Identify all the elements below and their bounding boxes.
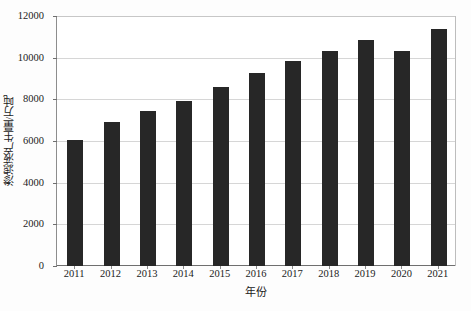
bar[interactable] xyxy=(394,51,410,266)
bar[interactable] xyxy=(322,51,338,266)
plot-area xyxy=(56,16,456,266)
x-axis-tick-mark xyxy=(365,266,366,269)
x-axis-tick-mark xyxy=(147,266,148,269)
x-axis-tick-labels: 2011201220132014201520162017201820192020… xyxy=(56,268,456,284)
x-axis-tick-mark xyxy=(220,266,221,269)
y-axis-tick-label: 4000 xyxy=(23,178,44,188)
y-axis-tick-label: 8000 xyxy=(23,94,44,104)
y-axis-tick-mark xyxy=(53,224,57,225)
x-axis-tick-mark xyxy=(74,266,75,269)
bar[interactable] xyxy=(104,122,120,266)
y-axis-tick-mark xyxy=(53,141,57,142)
bar[interactable] xyxy=(67,140,83,266)
x-axis-tick-label: 2014 xyxy=(173,268,194,280)
x-axis-tick-mark xyxy=(438,266,439,269)
bar[interactable] xyxy=(431,29,447,266)
bar[interactable] xyxy=(285,61,301,266)
x-axis-tick-label: 2021 xyxy=(427,268,448,280)
bar[interactable] xyxy=(176,101,192,266)
y-axis-tick-label: 2000 xyxy=(23,219,44,229)
y-axis-tick-mark xyxy=(53,58,57,59)
x-axis-tick-label: 2012 xyxy=(100,268,121,280)
x-axis-tick-mark xyxy=(329,266,330,269)
y-axis-tick-mark xyxy=(53,183,57,184)
x-axis-tick-label: 2011 xyxy=(64,268,85,280)
x-axis-tick-label: 2015 xyxy=(209,268,230,280)
x-axis-tick-mark xyxy=(256,266,257,269)
bar[interactable] xyxy=(358,40,374,266)
x-axis-title: 年份 xyxy=(56,283,456,299)
x-axis-tick-mark xyxy=(401,266,402,269)
x-axis-tick-label: 2017 xyxy=(282,268,303,280)
x-axis-tick-mark xyxy=(183,266,184,269)
y-axis-tick-mark xyxy=(53,266,57,267)
y-axis-tick-label: 12000 xyxy=(18,11,44,21)
bar[interactable] xyxy=(213,87,229,266)
x-axis-tick-label: 2013 xyxy=(136,268,157,280)
x-axis-tick-label: 2019 xyxy=(355,268,376,280)
bar[interactable] xyxy=(140,111,156,266)
y-axis-tick-mark xyxy=(53,16,57,17)
y-axis-tick-label: 0 xyxy=(39,261,44,271)
y-axis-tick-mark xyxy=(53,99,57,100)
bar-series xyxy=(57,16,455,266)
x-axis-tick-mark xyxy=(292,266,293,269)
y-axis-tick-label: 6000 xyxy=(23,136,44,146)
x-axis-tick-label: 2016 xyxy=(246,268,267,280)
y-axis-tick-labels: 020004000600080001000012000 xyxy=(0,16,52,266)
chart-figure: 渗滤液产生量/万吨 020004000600080001000012000 20… xyxy=(0,0,471,311)
x-axis-tick-label: 2020 xyxy=(391,268,412,280)
bar[interactable] xyxy=(249,73,265,266)
y-axis-tick-label: 10000 xyxy=(18,53,44,63)
x-axis-tick-label: 2018 xyxy=(318,268,339,280)
x-axis-tick-mark xyxy=(111,266,112,269)
